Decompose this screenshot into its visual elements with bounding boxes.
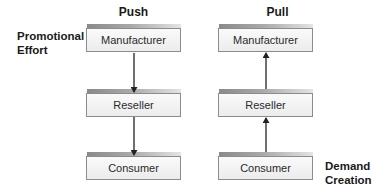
arrows-layer [0, 0, 380, 190]
